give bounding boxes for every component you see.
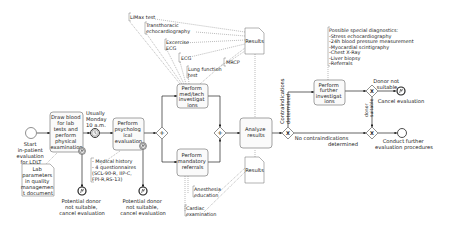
end-event-cancel-1[interactable]: Potential donor not suitable, cancel eva… (59, 187, 105, 216)
annotation-lung-text: Lung function test (188, 66, 223, 78)
flow-label-no-contraindications: No contraindications determined (295, 135, 358, 147)
annotation-mrcp-text: MRCP (226, 59, 240, 65)
error-boundary-event-icon (79, 148, 86, 155)
timer-event-label: Usually Monday 10 a.m. (86, 110, 108, 128)
end-event-cancel-2-label: Potential donor not suitable, cancel eva… (120, 198, 166, 216)
error-boundary-event-icon (140, 143, 147, 150)
end-event-cancel-1-label: Potential donor not suitable, cancel eva… (59, 198, 105, 216)
document-results-bottom-label: Results (245, 167, 264, 173)
task-draw-blood[interactable]: Draw blood for lab tests and perform phy… (50, 112, 86, 155)
annotation-ecg-text: ECG (181, 55, 192, 61)
task-mandatory-referrals-label: Perform mandatory referrals (177, 152, 207, 170)
end-event-cancel-3-label: Cancel evaluation (378, 98, 425, 104)
parallel-gateway-join[interactable]: + (214, 127, 226, 139)
task-mandatory-referrals[interactable]: Perform mandatory referrals (177, 149, 208, 176)
annotation-limax-text: LiMax test (130, 14, 155, 20)
parallel-gateway-split[interactable]: + (156, 127, 168, 139)
task-analyze-results[interactable]: Analyze results (240, 118, 272, 148)
annotation-lung-function: Lung function test (187, 66, 223, 78)
annotation-cardiac-text: Cardiac examination (186, 205, 216, 217)
x-icon: X (286, 130, 290, 136)
annotation-echo-text: Transthoracic echocardiography (145, 22, 190, 35)
annotation-psych-text: - Medical history - 4 questionnaires (SC… (92, 158, 138, 182)
exclusive-gateway-merge[interactable]: X (366, 127, 378, 139)
task-psychological-evaluation[interactable]: Perform psycholog ical evaluation (113, 118, 147, 150)
document-results-top-label: Results (245, 38, 264, 44)
annotation-exercise-ecg-text: Excercise ECG (166, 39, 191, 51)
flow-label-donor-suitable: donor suitable (364, 99, 374, 117)
annotation-ecg: ECG (179, 53, 192, 62)
end-event-conduct-further[interactable]: Conduct further evaluation procedures (375, 129, 433, 152)
x-icon: X (370, 88, 374, 94)
document-results-bottom[interactable]: Results (245, 157, 264, 183)
plus-icon: + (159, 129, 164, 137)
start-event-circle-icon (26, 128, 37, 139)
timer-event[interactable]: Usually Monday 10 a.m. (86, 110, 108, 138)
bpmn-diagram: Start in-patient evaluation for LDLT Dra… (0, 0, 464, 229)
flow-label-contraindications: Contraindications determined (279, 77, 291, 124)
annotation-mrcp: MRCP (224, 58, 240, 66)
flow-label-donor-not-suitable: Donor not suitable (373, 78, 401, 90)
exclusive-gateway-contraindications[interactable]: X (282, 127, 294, 139)
annotation-anesthesia-text: Anesthesia education (194, 186, 223, 198)
annotation-exercise-ecg: Excercise ECG (165, 39, 191, 51)
plus-icon: + (217, 129, 222, 137)
task-med-tech-investigations[interactable]: Perform med/tech investigat ions (177, 84, 208, 108)
annotation-limax: LiMax test (129, 13, 155, 21)
annotation-echo: Transthoracic echocardiography (145, 22, 190, 35)
document-lab-parameters[interactable]: Lab parameters in quality managemen t do… (21, 164, 55, 196)
annotation-special-diagnostics: Possible special diagnostics: -Stress ec… (328, 27, 415, 66)
end-event-cancel-2[interactable]: Potential donor not suitable, cancel eva… (120, 187, 166, 216)
task-further-investigations[interactable]: Perform further investigat ions (314, 80, 345, 105)
annotation-anesthesia: Anesthesia education (193, 186, 223, 198)
annotation-psych: - Medical history - 4 questionnaires (SC… (91, 158, 138, 182)
document-results-top[interactable]: Results (245, 28, 264, 54)
task-analyze-results-label: Analyze results (245, 126, 267, 138)
x-icon: X (370, 130, 374, 136)
annotation-special-diagnostics-text: Possible special diagnostics: -Stress ec… (329, 27, 415, 66)
end-event-conduct-label: Conduct further evaluation procedures (375, 138, 433, 151)
start-event-label: Start in-patient evaluation for LDLT (17, 141, 46, 165)
annotation-cardiac: Cardiac examination (185, 205, 216, 217)
